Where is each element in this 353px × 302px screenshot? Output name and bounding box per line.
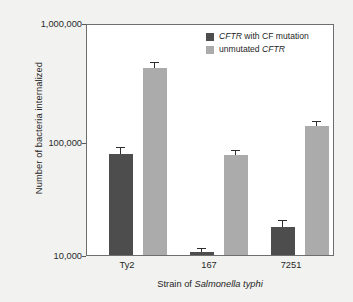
errorbar-cap-167-cftr-unmutated <box>231 150 240 151</box>
errorbar-167-cftr-mutated <box>201 249 202 252</box>
y-tick-1000000: 1,000,000 <box>26 19 82 29</box>
errorbar-ty2-cftr-unmutated <box>154 63 155 68</box>
y-axis-tick-labels: 1,000,000 100,000 10,000 <box>26 0 82 302</box>
errorbar-167-cftr-unmutated <box>235 151 236 155</box>
errorbar-cap-167-cftr-mutated <box>197 248 206 249</box>
bar-ty2-cftr-unmutated <box>143 68 167 255</box>
errorbar-cap-ty2-cftr-mutated <box>116 147 125 148</box>
y-tick-mark-10000 <box>82 256 86 257</box>
legend-swatch-light-icon <box>206 46 214 54</box>
bar-7251-cftr-mutated <box>271 227 295 255</box>
errorbar-cap-ty2-cftr-unmutated <box>150 62 159 63</box>
x-axis-title-prefix: Strain of <box>157 279 194 289</box>
legend-gene-italic: CFTR <box>262 44 285 54</box>
bar-ty2-cftr-mutated <box>109 154 133 255</box>
plot-area: CFTR with CF mutation unmutated CFTR <box>86 24 334 256</box>
x-tick-label-7251: 7251 <box>250 260 332 270</box>
legend-item-cftr-mutated: CFTR with CF mutation <box>206 31 309 43</box>
errorbar-7251-cftr-unmutated <box>316 122 317 126</box>
y-tick-10000: 10,000 <box>26 251 82 261</box>
legend-label-cftr-mutated: CFTR with CF mutation <box>219 31 309 43</box>
legend-item-cftr-unmutated: unmutated CFTR <box>206 44 309 56</box>
legend-label-prefix: unmutated <box>219 44 262 54</box>
errorbar-cap-7251-cftr-unmutated <box>312 121 321 122</box>
legend-label-cftr-unmutated: unmutated CFTR <box>219 44 285 56</box>
legend-gene-italic: CFTR <box>219 31 242 41</box>
x-axis-title-species-italic: Salmonella typhi <box>195 279 263 289</box>
chart-legend: CFTR with CF mutation unmutated CFTR <box>206 31 309 57</box>
bar-167-cftr-unmutated <box>224 155 248 255</box>
bar-7251-cftr-unmutated <box>305 126 329 255</box>
bar-chart-figure: Number of bacteria internalized 1,000,00… <box>0 0 353 302</box>
y-tick-label: 10,000 <box>26 251 82 261</box>
legend-swatch-dark-icon <box>206 33 214 41</box>
y-tick-label: 100,000 <box>26 138 82 148</box>
errorbar-ty2-cftr-mutated <box>120 148 121 154</box>
errorbar-cap-7251-cftr-mutated <box>278 220 287 221</box>
x-axis-title: Strain of Salmonella typhi <box>86 279 334 289</box>
y-tick-100000: 100,000 <box>26 138 82 148</box>
x-tick-label-ty2: Ty2 <box>86 260 168 270</box>
x-tick-label-167: 167 <box>168 260 250 270</box>
errorbar-7251-cftr-mutated <box>282 221 283 227</box>
legend-label-rest: with CF mutation <box>242 31 309 41</box>
plot-inner: CFTR with CF mutation unmutated CFTR <box>87 25 333 255</box>
bar-167-cftr-mutated <box>190 252 214 255</box>
y-tick-label: 1,000,000 <box>26 19 82 29</box>
